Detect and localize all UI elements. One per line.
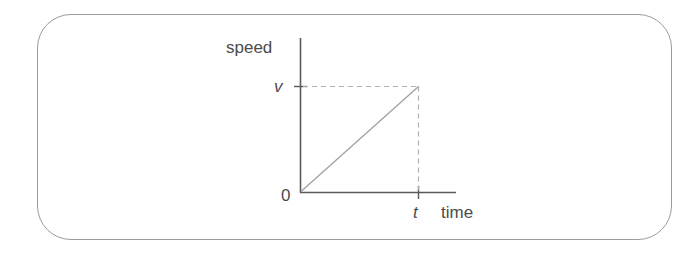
y-axis-title-speed: speed [226,39,272,56]
x-axis-tick-label-t: t [413,204,418,221]
x-axis-title-time: time [441,204,473,221]
graph-svg [0,0,699,255]
speed-time-graph: speed time v t 0 [0,0,699,255]
y-axis-tick-label-v: v [274,78,283,95]
figure-canvas: speed time v t 0 [0,0,699,255]
origin-label-zero: 0 [281,187,290,204]
speed-line-series [301,87,419,192]
